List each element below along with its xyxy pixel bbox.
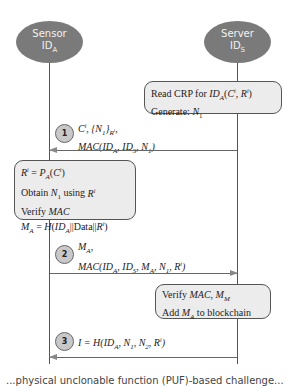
message-2-arrow bbox=[50, 273, 237, 274]
server-name: Server bbox=[221, 28, 254, 40]
message-1-line-1: Ci, {N1}Ri, bbox=[78, 120, 155, 140]
sensor-box-line-2: Obtain N1 using Ri bbox=[21, 184, 129, 204]
message-3-line-1: I = H(IDA, N1, N2, Ri) bbox=[78, 334, 165, 354]
sensor-name: Sensor bbox=[32, 28, 66, 40]
sensor-process-box: Ri = PA(Ci) Obtain N1 using Ri Verify MA… bbox=[14, 160, 136, 220]
message-1-text: Ci, {N1}Ri, MAC(IDA, IDS, N1) bbox=[78, 120, 155, 158]
server-box-2-line-2: Add MA to blockchain bbox=[162, 306, 264, 324]
server-box-2-line-1: Verify MAC, MM bbox=[162, 288, 264, 306]
message-1-arrow bbox=[50, 150, 237, 151]
sensor-actor: Sensor IDA bbox=[16, 21, 83, 63]
step-2-badge: 2 bbox=[55, 245, 74, 264]
sensor-box-line-1: Ri = PA(Ci) bbox=[21, 164, 129, 184]
message-3-text: I = H(IDA, N1, N2, Ri) bbox=[78, 334, 165, 354]
server-box-1-line-2: Generate: N1 bbox=[151, 105, 275, 123]
server-id: IDS bbox=[230, 40, 245, 56]
sensor-box-line-4: MA = H(IDA||Data||Ri) bbox=[21, 218, 129, 238]
message-2-line-2: MAC(IDA, IDS, MA, N1, Ri) bbox=[78, 258, 185, 278]
step-3-badge: 3 bbox=[55, 332, 74, 351]
sensor-id: IDA bbox=[42, 40, 57, 56]
message-3-arrow bbox=[50, 357, 237, 358]
figure-caption: ...physical unclonable function (PUF)-ba… bbox=[6, 375, 284, 386]
server-process-box-2: Verify MAC, MM Add MA to blockchain bbox=[155, 284, 271, 319]
message-2-line-1: MA, bbox=[78, 240, 185, 258]
step-1-badge: 1 bbox=[55, 124, 74, 143]
server-actor: Server IDS bbox=[204, 21, 271, 63]
server-process-box-1: Read CRP for IDA(Ci, Ri) Generate: N1 bbox=[144, 81, 282, 114]
sensor-box-line-3: Verify MAC bbox=[21, 205, 129, 218]
server-box-1-line-1: Read CRP for IDA(Ci, Ri) bbox=[151, 85, 275, 105]
